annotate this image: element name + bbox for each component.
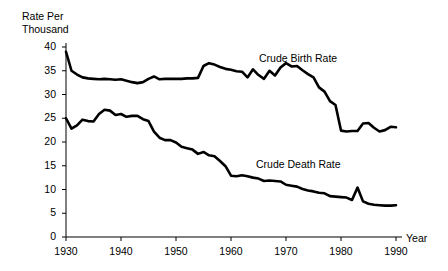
y-tick-label: 30 [32, 88, 56, 100]
y-tick-label: 40 [32, 40, 56, 52]
x-tick-label: 1950 [156, 245, 196, 257]
x-axis-ticks [66, 237, 396, 241]
y-tick-label: 35 [32, 64, 56, 76]
x-tick-label: 1940 [101, 245, 141, 257]
series-line-crude-death-rate [66, 110, 396, 206]
y-tick-label: 15 [32, 159, 56, 171]
axis-lines [66, 43, 402, 237]
plot-area [0, 0, 448, 271]
x-tick-label: 1990 [376, 245, 416, 257]
y-tick-label: 5 [32, 206, 56, 218]
y-tick-label: 25 [32, 111, 56, 123]
x-tick-label: 1980 [321, 245, 361, 257]
x-tick-label: 1930 [46, 245, 86, 257]
y-tick-label: 20 [32, 135, 56, 147]
y-tick-label: 10 [32, 183, 56, 195]
series-line-crude-birth-rate [66, 52, 396, 132]
y-tick-label: 0 [32, 230, 56, 242]
x-tick-label: 1960 [211, 245, 251, 257]
y-axis-ticks [62, 47, 66, 237]
x-tick-label: 1970 [266, 245, 306, 257]
chart-container: Rate PerThousand Year Crude Birth Rate C… [0, 0, 448, 271]
